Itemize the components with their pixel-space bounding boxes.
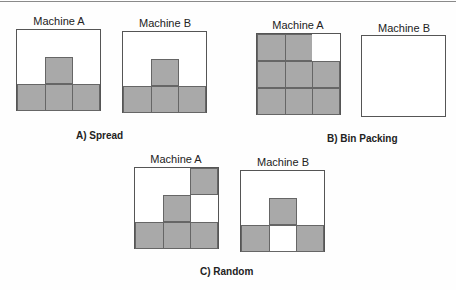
filled-slot <box>151 59 179 86</box>
machine-label: Machine A <box>9 15 109 27</box>
machine-b-random <box>240 170 325 252</box>
filled-slot <box>190 222 218 249</box>
filled-slot <box>17 84 46 111</box>
filled-slot <box>45 57 73 84</box>
filled-slot <box>312 61 340 88</box>
filled-slot <box>285 34 313 61</box>
machine-a-spread <box>16 29 101 111</box>
filled-slot <box>312 88 340 115</box>
filled-slot <box>178 86 206 113</box>
machine-a-binpacking <box>256 33 341 115</box>
empty-slot <box>312 34 340 61</box>
filled-slot <box>45 84 73 111</box>
filled-slot <box>190 168 218 195</box>
caption-random: C) Random <box>200 266 253 277</box>
page-top-rule <box>0 1 456 2</box>
machine-b-binpacking <box>361 35 446 117</box>
filled-slot <box>241 225 270 252</box>
filled-slot <box>285 88 313 115</box>
machine-label: Machine A <box>126 153 226 165</box>
empty-slot <box>269 225 297 252</box>
filled-slot <box>257 34 286 61</box>
filled-slot <box>269 198 297 225</box>
filled-slot <box>163 195 191 222</box>
machine-label: Machine B <box>115 17 215 29</box>
caption-spread: A) Spread <box>76 130 123 141</box>
filled-slot <box>72 84 100 111</box>
filled-slot <box>123 86 152 113</box>
caption-binpacking: B) Bin Packing <box>327 133 398 144</box>
filled-slot <box>135 222 164 249</box>
machine-a-random <box>134 167 219 249</box>
filled-slot <box>163 222 191 249</box>
filled-slot <box>151 86 179 113</box>
filled-slot <box>257 88 286 115</box>
filled-slot <box>257 61 286 88</box>
filled-slot <box>285 61 313 88</box>
machine-b-spread <box>122 31 207 113</box>
machine-label: Machine B <box>233 156 333 168</box>
filled-slot <box>296 225 324 252</box>
machine-label: Machine A <box>248 19 348 31</box>
machine-label: Machine B <box>354 22 454 34</box>
